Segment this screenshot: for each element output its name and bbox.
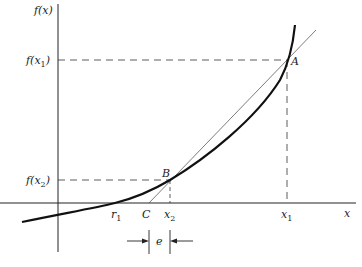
c-label: C	[142, 208, 151, 221]
point-a-label: A	[290, 55, 299, 68]
r1-label: r1	[111, 208, 121, 223]
e-right-arrowhead-icon	[170, 239, 177, 244]
x2-label: x2	[164, 208, 175, 223]
fx1-label: f(x1)	[25, 54, 50, 69]
secant-method-diagram: f(x) x f(x1) f(x2) r1 C x2 x1 A B e	[0, 0, 362, 267]
x-axis-label: x	[344, 207, 351, 220]
e-left-arrowhead-icon	[142, 239, 149, 244]
function-curve	[22, 25, 295, 222]
error-e-label: e	[156, 235, 163, 248]
x1-label: x1	[281, 208, 292, 223]
fx2-label: f(x2)	[25, 174, 50, 189]
point-b-label: B	[161, 167, 170, 180]
y-axis-label: f(x)	[33, 4, 53, 17]
